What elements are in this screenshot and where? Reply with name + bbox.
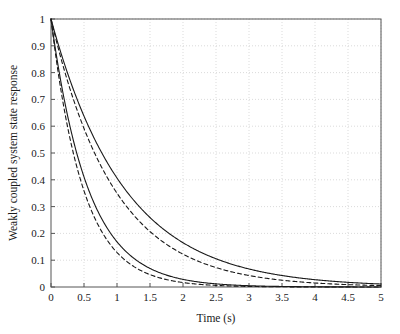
y-tick-label: 0.8 <box>31 67 45 79</box>
y-tick-label: 0.2 <box>31 227 45 239</box>
x-tick-label: 0 <box>48 291 54 303</box>
x-tick-label: 4 <box>312 291 318 303</box>
x-axis-title: Time (s) <box>197 312 236 325</box>
y-tick-label: 0.3 <box>31 201 45 213</box>
x-tick-label: 3.5 <box>275 291 289 303</box>
x-tick-label: 5 <box>378 291 384 303</box>
x-tick-label: 2 <box>180 291 186 303</box>
y-axis-title: Weakly coupled system state response <box>7 65 20 241</box>
weakly-coupled-response-chart: 00.511.522.533.544.55 00.10.20.30.40.50.… <box>0 0 400 334</box>
x-tick-label: 1 <box>114 291 120 303</box>
x-tick-label: 1.5 <box>143 291 157 303</box>
x-tick-label: 4.5 <box>341 291 355 303</box>
y-tick-label: 0.1 <box>31 254 45 266</box>
y-tick-label: 0.6 <box>31 120 45 132</box>
y-tick-label: 1 <box>40 13 46 25</box>
chart-figure: 00.511.522.533.544.55 00.10.20.30.40.50.… <box>0 0 400 334</box>
x-tick-label: 2.5 <box>209 291 223 303</box>
y-tick-label: 0.7 <box>31 93 45 105</box>
y-tick-label: 0.9 <box>31 40 45 52</box>
x-tick-label: 3 <box>246 291 252 303</box>
y-tick-label: 0.5 <box>31 147 45 159</box>
y-tick-label: 0.4 <box>31 174 45 186</box>
x-tick-label: 0.5 <box>77 291 91 303</box>
y-tick-label: 0 <box>40 281 46 293</box>
